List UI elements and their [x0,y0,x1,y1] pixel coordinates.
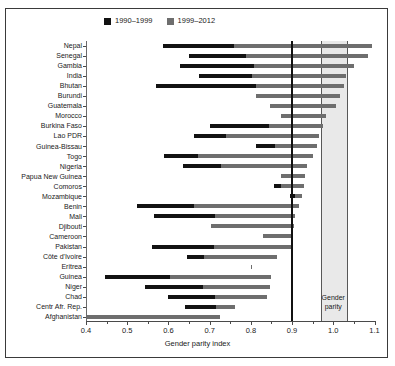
y-axis-tick [83,116,86,117]
bar-segment-1990-1999 [180,64,255,68]
bar-segment-1990-1999 [163,44,234,48]
bar-segment-1999-2012 [215,295,267,299]
bar-segment-1999-2012 [86,315,220,319]
y-axis-label: Lao PDR [54,132,82,139]
y-axis-tick [83,126,86,127]
y-axis-tick [83,257,86,258]
bar-segment-1990-1999 [199,74,252,78]
x-axis-tick [127,321,128,325]
bar-row [86,184,374,188]
y-axis-labels: NepalSenegalGambiaIndiaBhutanBurundiGuat… [0,0,82,366]
y-axis-label: Nigeria [60,163,82,170]
y-axis-label: Burkina Faso [41,122,82,129]
bar-segment-1990-1999 [156,84,256,88]
y-axis-tick [83,106,86,107]
bar-row [86,94,374,98]
bar-segment-1999-2012 [256,84,344,88]
legend-label-1999-2012: 1999–2012 [178,17,216,25]
bar-segment-1990-1999 [256,144,275,148]
bar-segment-1999-2012 [214,245,291,249]
legend-item-1999-2012: 1999–2012 [167,17,216,25]
bar-row [86,144,374,148]
x-axis-tick-label: 0.9 [287,326,297,335]
bar-row [86,124,374,128]
bar-segment-1999-2012 [215,214,295,218]
legend-swatch-1990-1999 [104,18,111,25]
y-axis-label: Benin [64,203,82,210]
y-axis-label: Bhutan [60,82,82,89]
y-axis-tick [83,146,86,147]
y-axis-label: Gambia [57,62,82,69]
bar-segment-1999-2012 [226,134,320,138]
bar-segment-1999-2012 [234,44,372,48]
bar-segment-1999-2012 [170,275,271,279]
x-axis-minor-tick [189,321,190,324]
y-axis-tick [83,247,86,248]
y-axis-spine [86,41,87,321]
bar-row [86,315,374,319]
y-axis-label: Burundi [58,92,82,99]
bar-segment-1999-2012 [270,104,336,108]
y-axis-tick [83,226,86,227]
y-axis-tick [83,196,86,197]
x-axis-minor-tick [313,321,314,324]
y-axis-label: Guatemala [48,102,82,109]
x-axis-tick-label: 0.4 [81,326,91,335]
y-axis-tick [83,216,86,217]
y-axis-label: Comoros [54,183,82,190]
y-axis-label: Papua New Guinea [21,173,82,180]
y-axis-label: Senegal [56,52,82,59]
x-axis-minor-tick [230,321,231,324]
gender-parity-label: Genderparity [321,294,346,311]
bar-segment-1990-1999 [210,124,269,128]
bar-segment-1999-2012 [269,124,323,128]
bar-segment-1999-2012 [211,224,294,228]
legend-label-1990-1999: 1990–1999 [115,17,153,25]
bar-row [86,234,374,238]
x-axis-tick-label: 1.1 [369,326,379,335]
x-axis-tick [210,321,211,325]
x-axis-tick-label: 0.7 [204,326,214,335]
x-axis-tick [375,321,376,325]
y-axis-label: Chad [65,293,82,300]
y-axis-tick [83,206,86,207]
y-axis-label: Niger [65,283,82,290]
bar-row [86,164,374,168]
bar-segment-1999-2012 [252,74,346,78]
x-axis-tick [251,321,252,325]
bar-row [86,54,374,58]
y-axis-label: Guinea-Bissau [36,143,82,150]
bar-row [86,245,374,249]
y-axis-label: India [67,72,82,79]
bar-segment-1990-1999 [189,54,246,58]
bar-segment-1999-2012 [295,194,302,198]
y-axis-tick [83,176,86,177]
x-axis-tick-label: 0.6 [163,326,173,335]
bar-segment-1990-1999 [154,214,215,218]
bar-segment-1990-1999 [183,164,221,168]
bar-segment-1999-2012 [203,285,270,289]
bar-row [86,265,374,269]
bar-row [86,104,374,108]
reference-line-090 [291,41,293,321]
bar-row [86,214,374,218]
bar-segment-1990-1999 [194,134,226,138]
bar-row [86,64,374,68]
y-axis-label: Côte d'Ivoire [43,253,82,260]
x-axis-tick [86,321,87,325]
bar-row [86,194,374,198]
y-axis-tick [83,186,86,187]
y-axis-label: Mali [69,213,82,220]
gender-parity-label-line: parity [321,303,346,312]
y-axis-tick [83,86,86,87]
bar-segment-1999-2012 [194,204,300,208]
legend-swatch-1999-2012 [167,18,174,25]
bar-segment-1990-1999 [137,204,194,208]
bar-segment-1999-2012 [198,154,313,158]
x-axis-tick [333,321,334,325]
bar-row [86,134,374,138]
x-axis-minor-tick [148,321,149,324]
y-axis-label: Afghanistan [45,313,82,320]
y-axis-tick [83,76,86,77]
bar-segment-1999-2012 [256,94,340,98]
